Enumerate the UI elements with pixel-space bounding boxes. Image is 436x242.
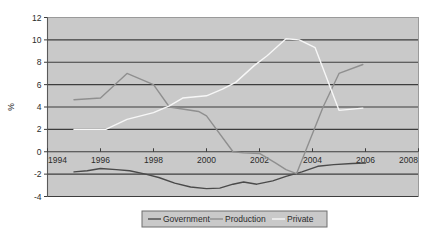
y-tick-label: 6 — [37, 80, 42, 90]
chart-container: 19941996199820002002200420062008 -4-2024… — [0, 0, 436, 242]
x-tick-label: 1996 — [91, 155, 110, 165]
legend-label-private: Private — [287, 214, 314, 224]
x-tick-label: 1998 — [144, 155, 163, 165]
y-tick-label: 8 — [37, 57, 42, 67]
legend-label-government: Government — [163, 214, 210, 224]
y-tick-label: -2 — [34, 169, 42, 179]
x-tick-label: 1994 — [48, 155, 67, 165]
y-axis-label-text: % — [6, 103, 16, 111]
x-tick-label: 2000 — [197, 155, 216, 165]
y-tick-label: 0 — [37, 147, 42, 157]
y-tick-label: 12 — [32, 13, 42, 23]
y-axis-ticks: -4-2024681012 — [32, 13, 47, 202]
x-tick-label: 2002 — [250, 155, 269, 165]
legend-label-production: Production — [225, 214, 266, 224]
y-tick-label: 10 — [32, 35, 42, 45]
y-tick-label: 2 — [37, 124, 42, 134]
x-tick-label: 2008 — [399, 155, 418, 165]
chart-legend: GovernmentProductionPrivate — [142, 211, 327, 227]
line-chart: 19941996199820002002200420062008 -4-2024… — [0, 0, 436, 242]
y-tick-label: 4 — [37, 102, 42, 112]
y-axis-label: % — [6, 103, 16, 111]
y-tick-label: -4 — [34, 192, 42, 202]
x-tick-label: 2004 — [303, 155, 322, 165]
